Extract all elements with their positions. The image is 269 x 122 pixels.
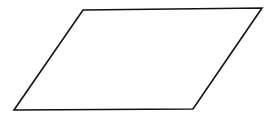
diagram-canvas — [0, 0, 269, 122]
parallelogram-shape — [14, 8, 262, 110]
